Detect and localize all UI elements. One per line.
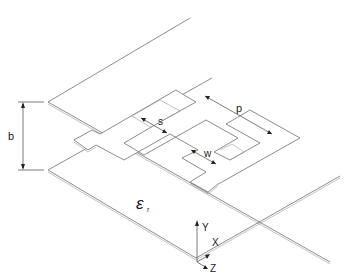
permittivity-label: ε r <box>136 194 150 213</box>
axis-z-label: Z <box>210 263 216 274</box>
label-s: s <box>158 116 163 127</box>
bottom-plate <box>48 78 340 260</box>
z-arrow-icon <box>203 265 208 269</box>
arrow-icon <box>162 129 167 133</box>
label-b: b <box>8 130 14 142</box>
meander-line-diagram: b p s w ε r Y X Z <box>0 0 358 280</box>
epsilon-symbol: ε <box>136 194 144 213</box>
axis-x-label: X <box>212 237 219 248</box>
label-w: w <box>203 148 212 159</box>
arrow-up-icon <box>21 102 25 108</box>
epsilon-subscript: r <box>147 206 150 213</box>
axis-y-label: Y <box>202 222 209 233</box>
label-p: p <box>236 102 242 114</box>
arrow-icon <box>205 96 210 100</box>
meander-strip <box>74 90 300 194</box>
y-arrow-icon <box>195 220 199 226</box>
dimension-b: b <box>8 102 44 170</box>
coordinate-axes: Y X Z <box>195 220 219 274</box>
arrow-down-icon <box>21 164 25 170</box>
